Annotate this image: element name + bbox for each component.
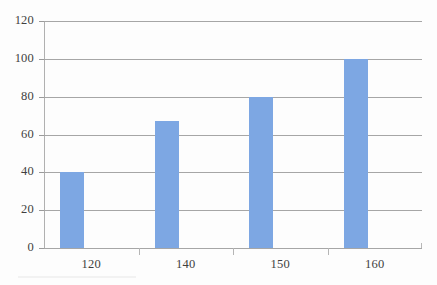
plot-area (44, 21, 422, 248)
y-axis-label-120: 120 (0, 14, 34, 27)
bar-chart: 120100806040200 120140150160 (0, 0, 437, 285)
chart-screenshot: 120100806040200 120140150160 (0, 0, 437, 285)
gridline-120 (44, 21, 422, 22)
x-axis-label-150: 150 (250, 258, 310, 271)
y-axis-label-60: 60 (0, 128, 34, 141)
x-axis-label-120: 120 (61, 258, 121, 271)
x-tick-140 (139, 248, 140, 255)
scan-artifact (18, 276, 136, 278)
x-axis-label-160: 160 (345, 258, 405, 271)
y-axis-label-100: 100 (0, 52, 34, 65)
y-axis-label-20: 20 (0, 203, 34, 216)
bar-150 (249, 97, 273, 248)
y-axis-label-0: 0 (0, 241, 34, 254)
bar-160 (344, 59, 368, 248)
x-tick-160 (328, 248, 329, 255)
y-axis-label-40: 40 (0, 165, 34, 178)
bar-140 (155, 121, 179, 248)
x-tick-150 (233, 248, 234, 255)
bar-120 (60, 172, 84, 248)
y-axis-label-80: 80 (0, 90, 34, 103)
x-axis-label-140: 140 (156, 258, 216, 271)
